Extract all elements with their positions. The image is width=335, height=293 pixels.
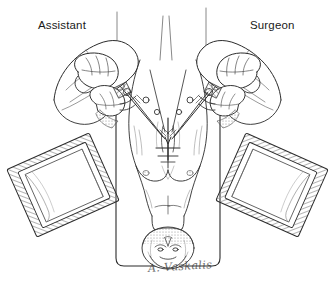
instrument-tray-left	[7, 133, 119, 237]
illustration-figure: Assistant Surgeon A. Vaskalis	[0, 0, 335, 293]
line-art-canvas	[0, 0, 335, 293]
label-surgeon: Surgeon	[250, 19, 295, 31]
label-assistant: Assistant	[38, 19, 86, 31]
instrument-tray-right	[216, 133, 328, 237]
